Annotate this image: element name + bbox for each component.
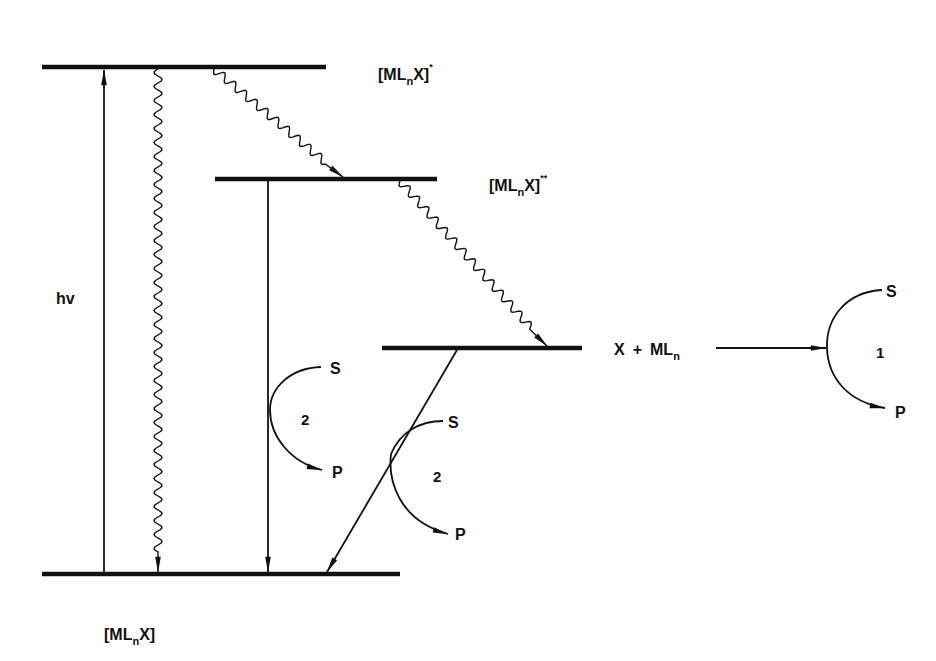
wavy-relax-arrow-2 (399, 181, 547, 346)
cycle-1-product: P (895, 404, 906, 421)
energy-diagram: [MLnX]* [MLnX]** [MLnX] hv X+MLn S 1 P S… (0, 0, 936, 661)
cycle-2a-arc (270, 367, 322, 470)
label-excited-2: [MLnX]** (489, 173, 548, 198)
wavy-decay-arrow (154, 69, 162, 572)
cycle-2b-number: 2 (433, 468, 441, 485)
wavy-relax-arrow-1 (214, 69, 343, 177)
cycle-2b-product: P (455, 526, 466, 543)
cycle-2a-product: P (332, 464, 343, 481)
label-ground: [MLnX] (104, 626, 155, 647)
label-products: X+MLn (614, 341, 680, 362)
cycle-2a-number: 2 (301, 411, 309, 428)
label-hv: hv (56, 290, 75, 307)
decay-arrow-dissociative (327, 350, 457, 572)
cycle-2a-substrate: S (330, 360, 341, 377)
cycle-1-number: 1 (876, 344, 884, 361)
cycle-2b-substrate: S (448, 414, 459, 431)
cycle-1-substrate: S (886, 283, 897, 300)
label-excited-1: [MLnX]* (378, 62, 433, 87)
